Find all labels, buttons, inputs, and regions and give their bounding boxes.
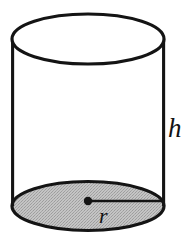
center-dot [84, 197, 92, 205]
cylinder-drawing [0, 0, 194, 249]
height-label: h [168, 115, 182, 142]
cylinder-figure: h r [0, 0, 194, 249]
top-ellipse [12, 14, 164, 64]
radius-label: r [99, 205, 108, 227]
base-ellipse [12, 182, 164, 231]
